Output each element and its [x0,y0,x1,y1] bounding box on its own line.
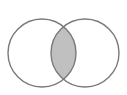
venn-diagram [0,0,127,95]
